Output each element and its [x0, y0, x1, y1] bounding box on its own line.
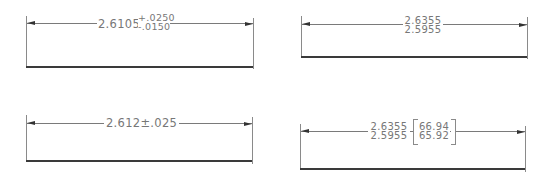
- limit-stack: 2.6355 2.5955: [403, 16, 443, 34]
- lower-deviation: -.0150: [138, 23, 170, 31]
- nominal-value: 2.6105: [97, 18, 141, 30]
- arrowhead-right-icon: [517, 130, 525, 134]
- symmetrical-value: 2.612±.025: [104, 117, 179, 129]
- arrowhead-left-icon: [301, 129, 309, 133]
- arrowhead-left-icon: [27, 121, 35, 125]
- base-line: [300, 168, 525, 170]
- base-line: [26, 160, 252, 162]
- base-line: [301, 56, 527, 58]
- base-line: [26, 66, 253, 68]
- arrowhead-right-icon: [519, 23, 527, 27]
- arrowhead-right-icon: [244, 122, 252, 126]
- arrowhead-left-icon: [302, 22, 310, 26]
- bracket-spacer: [418, 120, 451, 142]
- lower-limit: 2.5955: [403, 25, 443, 34]
- extension-line-right: [253, 18, 254, 69]
- bracket-right-icon: [451, 119, 456, 145]
- extension-line-right: [527, 17, 528, 59]
- lower-limit: 2.5955: [368, 131, 410, 140]
- arrowhead-right-icon: [245, 22, 253, 26]
- arrowhead-left-icon: [27, 21, 35, 25]
- limit-stack: 2.6355 2.5955: [368, 122, 410, 140]
- extension-line-right: [252, 117, 253, 164]
- extension-line-right: [525, 126, 526, 172]
